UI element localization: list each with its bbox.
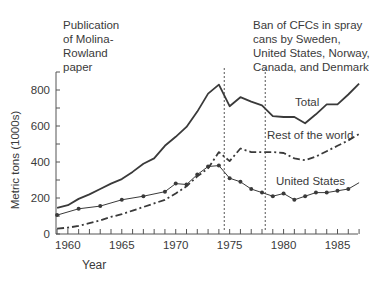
series-label-united-states: United States	[276, 174, 345, 188]
svg-text:1965: 1965	[109, 239, 135, 251]
svg-text:400: 400	[31, 156, 50, 168]
svg-text:1980: 1980	[271, 239, 297, 251]
svg-text:1985: 1985	[325, 239, 351, 251]
x-axis-label: Year	[82, 258, 106, 272]
y-axis-label: Metric tons (1000s)	[9, 111, 21, 209]
svg-text:0: 0	[44, 228, 50, 240]
svg-text:200: 200	[31, 192, 50, 204]
svg-text:1970: 1970	[163, 239, 189, 251]
svg-text:1975: 1975	[217, 239, 243, 251]
svg-text:1960: 1960	[55, 239, 81, 251]
svg-text:800: 800	[31, 84, 50, 96]
series-label-rest-of-world: Rest of the world	[267, 128, 353, 142]
annotation-cfc-ban: Ban of CFCs in spray cans by Sweden, Uni…	[253, 18, 370, 74]
svg-text:600: 600	[31, 120, 50, 132]
annotation-molina-rowland: Publication of Molina- Rowland paper	[63, 18, 119, 74]
series-label-total: Total	[295, 95, 319, 109]
